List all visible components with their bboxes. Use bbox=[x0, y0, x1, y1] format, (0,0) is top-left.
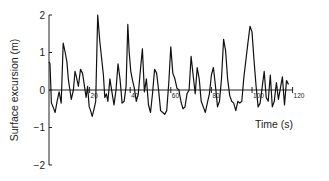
x-axis-title: Time (s) bbox=[255, 118, 293, 130]
surface-excursion-line bbox=[49, 15, 289, 116]
y-tick-label: −1 bbox=[34, 122, 46, 133]
x-tick-label: 120 bbox=[294, 92, 305, 99]
y-tick-label: 0 bbox=[39, 85, 45, 96]
x-tick-label: 60 bbox=[172, 92, 180, 99]
x-axis-tick-labels: 20406080100120 bbox=[91, 92, 305, 99]
y-axis-tick-labels: 210−1−2 bbox=[34, 10, 46, 171]
x-tick-label: 20 bbox=[91, 92, 99, 99]
x-tick-label: 100 bbox=[253, 92, 264, 99]
y-tick-label: −2 bbox=[34, 160, 46, 171]
y-tick-label: 1 bbox=[39, 47, 45, 58]
y-axis-title: Surface excursion (m) bbox=[8, 39, 20, 142]
surface-excursion-chart: 210−1−2 20406080100120 Surface excursion… bbox=[0, 0, 329, 181]
y-tick-label: 2 bbox=[39, 10, 45, 21]
